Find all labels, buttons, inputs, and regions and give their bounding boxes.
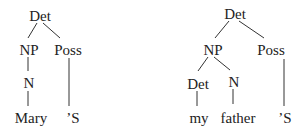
edge-det-np xyxy=(28,23,37,38)
leaf-my: my xyxy=(189,110,209,126)
node-det-root: Det xyxy=(224,6,246,22)
node-det-inner: Det xyxy=(187,76,209,92)
tree-mary: Det NP Poss N Mary ’S xyxy=(15,8,82,126)
edge-det-np xyxy=(215,21,229,38)
leaf-mary: Mary xyxy=(15,110,48,126)
node-np: NP xyxy=(203,42,222,58)
node-poss: Poss xyxy=(54,42,82,58)
syntax-trees-diagram: Det NP Poss N Mary ’S Det NP Poss Det N … xyxy=(0,0,307,137)
node-n: N xyxy=(229,74,240,90)
node-poss: Poss xyxy=(257,42,285,58)
node-n: N xyxy=(24,75,35,91)
edge-np-det xyxy=(198,57,208,71)
node-det-root: Det xyxy=(29,8,51,24)
leaf-possessive-s: ’S xyxy=(278,110,291,126)
tree-my-father: Det NP Poss Det N my father ’S xyxy=(187,6,292,126)
node-np: NP xyxy=(19,42,38,58)
edge-det-poss xyxy=(239,21,264,38)
edge-np-n xyxy=(214,57,230,70)
edge-det-poss xyxy=(43,23,60,38)
leaf-possessive-s: ’S xyxy=(66,110,79,126)
leaf-father: father xyxy=(221,110,256,126)
